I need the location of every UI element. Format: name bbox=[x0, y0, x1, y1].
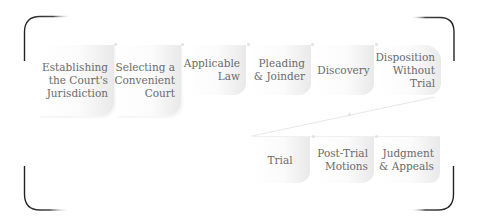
step-disposition-without-trial: Disposition Without Trial bbox=[377, 45, 441, 95]
connector-dot bbox=[114, 43, 117, 46]
connector-dot bbox=[375, 135, 378, 138]
step-label: Applicable Law bbox=[184, 57, 240, 83]
row-connector-line bbox=[240, 95, 450, 140]
connector-dot bbox=[348, 113, 351, 116]
bracket-bottom-left bbox=[0, 150, 90, 223]
step-post-trial-motions: Post-Trial Motions bbox=[314, 137, 374, 183]
connector-dot bbox=[312, 135, 315, 138]
step-judgment-appeals: Judgment & Appeals bbox=[377, 137, 440, 183]
step-establishing-jurisdiction: Establishing the Court's Jurisdiction bbox=[38, 45, 114, 116]
step-label: Trial bbox=[268, 154, 293, 167]
step-label: Post-Trial Motions bbox=[317, 147, 368, 173]
step-label: Establishing the Court's Jurisdiction bbox=[42, 61, 108, 100]
step-label: Selecting a Convenient Court bbox=[114, 61, 175, 100]
step-label: Pleading & Joinder bbox=[254, 57, 305, 83]
connector-dot bbox=[247, 43, 250, 46]
connector-dot bbox=[375, 43, 378, 46]
step-selecting-court: Selecting a Convenient Court bbox=[116, 45, 181, 116]
step-applicable-law: Applicable Law bbox=[183, 45, 246, 95]
step-label: Discovery bbox=[317, 64, 369, 77]
connector-dot bbox=[311, 43, 314, 46]
step-discovery: Discovery bbox=[313, 45, 374, 95]
step-pleading-joinder: Pleading & Joinder bbox=[249, 45, 311, 95]
step-label: Disposition Without Trial bbox=[375, 51, 435, 90]
step-trial: Trial bbox=[250, 137, 310, 183]
step-label: Judgment & Appeals bbox=[379, 147, 434, 173]
connector-dot bbox=[181, 43, 184, 46]
